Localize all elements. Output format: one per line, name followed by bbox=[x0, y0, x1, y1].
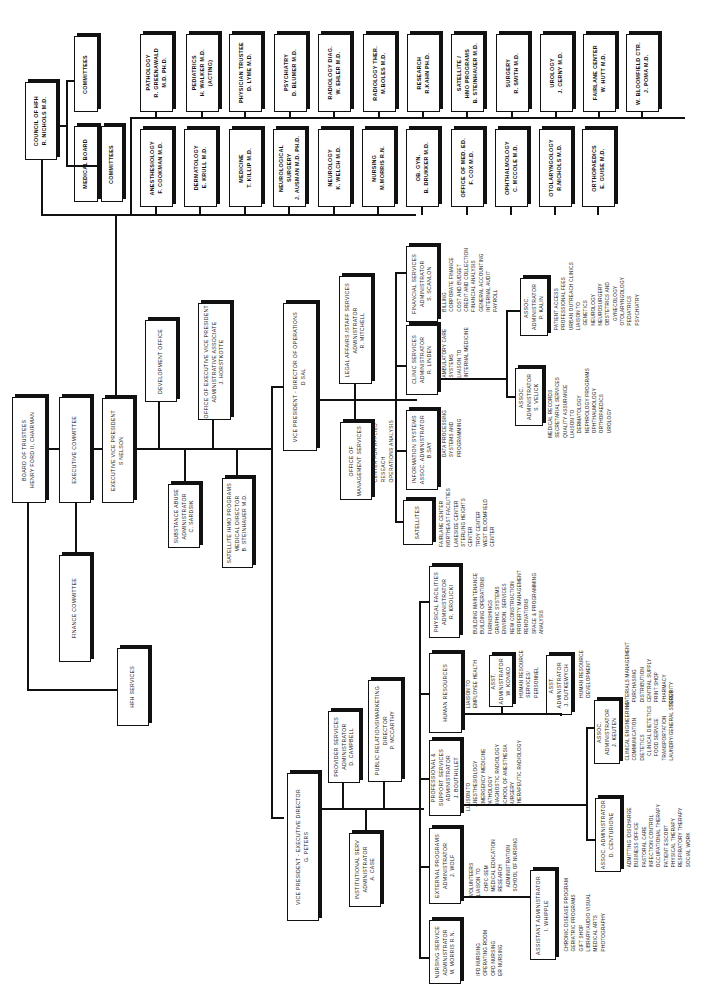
connector bbox=[66, 80, 68, 166]
connector bbox=[319, 808, 424, 810]
connector bbox=[288, 206, 290, 215]
connector bbox=[586, 839, 595, 841]
department-box: PEDIATRICS H. WALKER M.D. (ACTING) bbox=[186, 34, 219, 112]
department-box: RESEARCH R.KAHN PH.D. bbox=[407, 34, 440, 112]
physical-facilities-note: BUILDING MAINTENANCE BUILDING OPERATIONS… bbox=[472, 570, 545, 634]
connector bbox=[466, 111, 468, 118]
public-relations-box: PUBLIC RELATIONS/MARKETING DIRECTOR P. M… bbox=[368, 680, 402, 782]
connector bbox=[598, 111, 600, 118]
connector bbox=[130, 117, 685, 119]
connector bbox=[419, 693, 429, 695]
connector bbox=[419, 866, 429, 868]
connector bbox=[201, 111, 203, 118]
connector bbox=[510, 206, 512, 215]
connector bbox=[271, 386, 273, 448]
professional-support-box: PROFESSIONAL & SUPPORT SERVICES ADMINIST… bbox=[429, 740, 461, 816]
development-office-box: DEVELOPMENT OFFICE bbox=[145, 320, 177, 402]
connector bbox=[555, 111, 557, 118]
connector bbox=[134, 448, 272, 450]
institutional-services-box: INSTITUTIONAL SERV ADMINISTRATOR A. CASE bbox=[349, 833, 381, 907]
substance-abuse-box: SUBSTANCE ABUSE ADMINISTRATOR C. SARDSIK bbox=[168, 484, 200, 548]
department-box: MEDICINE T. KILLIP M.D. bbox=[229, 129, 262, 207]
connector bbox=[244, 111, 246, 118]
connector bbox=[271, 386, 283, 388]
connector bbox=[461, 804, 587, 806]
department-box: DERMATOLOGY E. KRULL M.D. bbox=[184, 129, 217, 207]
department-box: OPHTHALMOLOGY C. McCOLE M.D. bbox=[495, 129, 528, 207]
department-box: ORTHOPAEDICS E. GUISE M.D. bbox=[582, 129, 615, 207]
clinic-services-note: AMBULATORY CARE SYSTEMS LIAISON TO INTER… bbox=[441, 327, 470, 378]
connector bbox=[365, 808, 367, 833]
connector bbox=[419, 601, 429, 603]
committees-top-box: COMMITTEES bbox=[74, 36, 98, 112]
vp-executive-director-box: VICE PRESIDENT - EXECUTIVE DIRECTOR G. P… bbox=[287, 773, 319, 921]
connector bbox=[506, 310, 508, 397]
department-box: FAIRLANE CENTER W. HUTT M.D. bbox=[583, 34, 616, 112]
physical-facilities-box: PHYSICAL FACILITIES ADMINISTRATOR R. KRO… bbox=[429, 566, 460, 638]
legal-affairs-box: LEGAL AFFAIRS /STAFF SERVICES ADMINISTRA… bbox=[339, 276, 372, 384]
department-box: PSYCHIATRY D. BLUMER M.D. bbox=[274, 34, 307, 112]
connector bbox=[199, 206, 201, 215]
connector bbox=[27, 689, 117, 691]
information-systems-box: INFORMATION SYSTEMS ASSOC. ADMINISTRATOR… bbox=[406, 410, 438, 490]
external-programs-note: VOLUNTEERS LIAISON TO CHPC-SEM MEDICAL E… bbox=[468, 838, 519, 896]
department-box: PATHOLOGY R. GREENAWALD M.D. PH.D. bbox=[140, 34, 173, 112]
connector bbox=[271, 817, 284, 819]
connector bbox=[506, 396, 515, 398]
connector bbox=[641, 111, 643, 118]
whipple-note: CHRONIC DISEASE PROGRAM GERIATRIC PROGRA… bbox=[563, 878, 607, 951]
professional-support-note: LIAISON TO ANESTHESIOLOGY EMERGENCY MEDI… bbox=[465, 740, 524, 811]
nursing-service-box: NURSING SERVICE ADMINISTRATOR M. MORRIS … bbox=[429, 920, 461, 984]
connector bbox=[289, 111, 291, 118]
financial-services-box: FINANCIAL SERVICES ADMINISTRATOR S. SCAN… bbox=[406, 246, 438, 322]
department-box: W. BLOOMFIELD CTR. J. POMA M.D. bbox=[626, 34, 659, 112]
department-box: UROLOGY J. CERNY M.D. bbox=[540, 34, 573, 112]
connector bbox=[236, 448, 238, 478]
financial-services-note: BILLING CORPORATE FINANCE COST AND BUDGE… bbox=[441, 248, 500, 312]
connector bbox=[41, 160, 43, 215]
connector bbox=[66, 80, 74, 82]
finance-committee-box: FINANCE COMMITTEE bbox=[59, 555, 91, 662]
assoc-admin-velick-box: ASSOC. ADMINISTRATOR S. VELICK bbox=[515, 368, 543, 426]
vp-operations-box: VICE PRESIDENT - DIRECTOR OF OPERATIONS … bbox=[283, 303, 317, 451]
evp-box: EXECUTIVE VICE PRESIDENT S NELSON bbox=[102, 398, 134, 503]
connector bbox=[75, 503, 77, 555]
dutkewych-note: HUMAN RESOURCE DEVELOPMENT bbox=[578, 650, 593, 698]
clinic-services-box: CLINIC SERVICES ADMINISTRATOR R. LINDEN bbox=[406, 325, 438, 395]
department-box: SATELLITE / HMO PROGRAMS B. STEINHAUER M… bbox=[451, 34, 484, 112]
connector bbox=[271, 448, 273, 818]
department-box: OB. GYN. B. DRUKKER M.D. bbox=[406, 129, 439, 207]
human-resources-note: LIAISON TO EMPLOYEE HEALTH bbox=[465, 660, 480, 708]
office-evp-box: OFFICE OF EXECUTIVE VICE PRESIDENT ADMIN… bbox=[198, 303, 231, 420]
connector bbox=[383, 782, 385, 809]
department-box: NURSING M.MORRIS R.N. bbox=[362, 129, 395, 207]
connector bbox=[333, 111, 335, 118]
assoc-admin-keuten-box: ASSOC. ADMINISTRATOR J. KEUTEN bbox=[594, 700, 620, 764]
connector bbox=[461, 896, 530, 898]
connector bbox=[560, 713, 562, 716]
nursing-service-note: IPD NURSING OPERATING ROOM OPD NURSING E… bbox=[475, 930, 504, 976]
management-services-box: OFFICE OF MANAGEMENT SERVICES bbox=[340, 422, 372, 500]
connector bbox=[91, 448, 102, 450]
department-box: ANESTHESIOLOGY F. COOKMAN M.D. bbox=[140, 129, 173, 207]
connector bbox=[421, 206, 423, 215]
asst-admin-konko-box: ASST. ADMINISTRATOR W. KONKO bbox=[489, 655, 513, 707]
connector bbox=[130, 117, 132, 215]
centurione-note: ADMITTING /DISCHARGE BUSINESS OFFICE PAS… bbox=[626, 804, 692, 867]
satellites-box: SATELLITES bbox=[403, 500, 433, 545]
connector bbox=[395, 450, 406, 452]
keuten-note-b: MATERIALS MANAGEMENT PURCHASING DISTRIBU… bbox=[624, 642, 675, 707]
board-of-trustees-box: BOARD OF TRUSTEES HENRY FORD II, CHAIRMA… bbox=[12, 397, 46, 503]
kalin-note: PATIENT ACCESS PROFESSIONAL FEES URBAN O… bbox=[553, 262, 641, 330]
department-box: OTOLARYNGOLOGY R.NICHOLS M.D. bbox=[539, 129, 572, 207]
connector bbox=[354, 384, 356, 422]
connector bbox=[586, 727, 594, 729]
department-box: NEUROLOGY K. WELCH M.D. bbox=[318, 129, 351, 207]
hfh-services-box: HFH SERVICES bbox=[117, 648, 149, 726]
department-box: RADIOLOGY DIAG. W. EHLER M.D. bbox=[318, 34, 351, 112]
connector bbox=[438, 378, 506, 380]
executive-committee-box: EXECUTIVE COMMITTEE bbox=[59, 397, 91, 503]
connector bbox=[506, 310, 520, 312]
connector bbox=[155, 111, 157, 118]
department-box: PHYSICIAN TRUSTEE D. LYME M.D. bbox=[229, 34, 262, 112]
